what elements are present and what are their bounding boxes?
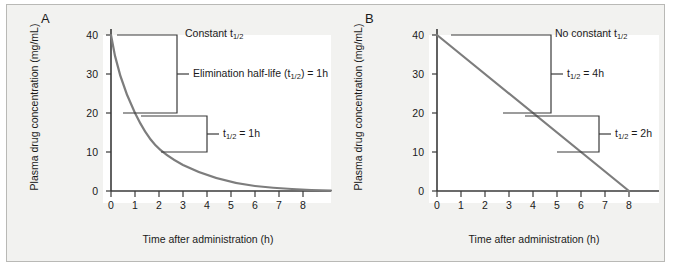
panel-a-letter: A <box>41 11 50 26</box>
panel-a-xtick-6: 6 <box>248 200 262 210</box>
panel-a-y-axis-label: Plasma drug concentration (mg/mL) <box>28 17 40 197</box>
panel-a-xtick-2: 2 <box>152 200 166 210</box>
panel-b-xtick-0: 0 <box>430 200 444 210</box>
panel-b-x-axis-label: Time after administration (h) <box>409 233 659 245</box>
panel-a-plot-svg <box>103 35 331 203</box>
panel-b-annotation-2-sub: 1/2 <box>618 132 628 141</box>
panel-b-xtick-3: 3 <box>502 200 516 210</box>
panel-b-xtick-5: 5 <box>550 200 564 210</box>
panel-a-x-ticks <box>111 191 303 197</box>
panel-a-xtick-7: 7 <box>272 200 286 210</box>
panel-a-bracket-halflife-2 <box>141 116 219 152</box>
figure-container: A Plasma drug concentration (mg/mL) <box>6 4 665 262</box>
panel-a-annotation-2: t1/2 = 1h <box>223 128 260 142</box>
panel-a-ytick-30: 30 <box>76 69 98 79</box>
panel-a-xtick-3: 3 <box>176 200 190 210</box>
panel-a-xtick-4: 4 <box>200 200 214 210</box>
panel-a-bracket-halflife-1 <box>117 35 189 113</box>
panel-b-plot-svg <box>429 35 659 203</box>
panel-b-annotation-1: t1/2 = 4h <box>567 68 604 82</box>
panel-a-heading: Constant t1/2 <box>185 28 243 42</box>
panel-a-annotation-1: Elimination half-life (t1/2) = 1h <box>193 68 328 82</box>
panel-a-ytick-40: 40 <box>76 30 98 40</box>
panel-a-annotation-1-text: Elimination half-life (t <box>193 67 290 79</box>
panel-b-y-axis-label: Plasma drug concentration (mg/mL) <box>352 17 364 197</box>
panel-b-xtick-8: 8 <box>622 200 636 210</box>
panel-a-xtick-0: 0 <box>104 200 118 210</box>
panel-b-letter: B <box>365 11 374 26</box>
panel-a-ytick-20: 20 <box>76 108 98 118</box>
panel-b-ytick-10: 10 <box>402 147 424 157</box>
panel-b-xtick-1: 1 <box>454 200 468 210</box>
panel-b-bracket-halflife-2 <box>525 116 611 152</box>
panel-a-annotation-1-sub: 1/2 <box>290 72 300 81</box>
panel-a-ytick-10: 10 <box>76 147 98 157</box>
panel-b-annotation-1-tail: = 4h <box>580 67 604 79</box>
panel-b-ytick-20: 20 <box>402 108 424 118</box>
panel-a-plot-area: 0 10 20 30 40 0 1 2 3 4 5 6 7 8 Constant… <box>103 35 331 203</box>
panel-a-xtick-1: 1 <box>128 200 142 210</box>
panel-a-x-axis-label: Time after administration (h) <box>83 233 333 245</box>
panel-b-annotation-1-sub: 1/2 <box>570 72 580 81</box>
panel-a: A Plasma drug concentration (mg/mL) <box>7 5 337 261</box>
panel-b-annotation-2: t1/2 = 2h <box>615 128 652 142</box>
panel-b-xtick-4: 4 <box>526 200 540 210</box>
panel-a-annotation-1-tail: ) = 1h <box>301 67 328 79</box>
panel-b-ytick-30: 30 <box>402 69 424 79</box>
panel-b-xtick-6: 6 <box>574 200 588 210</box>
panel-a-annotation-2-sub: 1/2 <box>226 132 236 141</box>
panel-b-heading-sub: 1/2 <box>617 32 627 41</box>
panel-a-heading-text: Constant t <box>185 27 233 39</box>
panel-b-bracket-halflife-1 <box>451 35 563 113</box>
panel-a-xtick-8: 8 <box>296 200 310 210</box>
panel-b-heading: No constant t1/2 <box>555 28 627 42</box>
panel-b-xtick-7: 7 <box>598 200 612 210</box>
panel-b-heading-text: No constant t <box>555 27 617 39</box>
panel-a-annotation-2-tail: = 1h <box>236 127 260 139</box>
panel-a-xtick-5: 5 <box>224 200 238 210</box>
panel-b-plot-area: 0 10 20 30 40 0 1 2 3 4 5 6 7 8 No const… <box>429 35 659 203</box>
panel-b-x-ticks <box>437 191 629 197</box>
panel-b-xtick-2: 2 <box>478 200 492 210</box>
panel-b: B Plasma drug concentration (mg/mL) <box>337 5 666 261</box>
panel-a-heading-sub: 1/2 <box>233 32 243 41</box>
panel-b-ytick-0: 0 <box>402 186 424 196</box>
panel-b-ytick-40: 40 <box>402 30 424 40</box>
panel-b-annotation-2-tail: = 2h <box>628 127 652 139</box>
panel-a-ytick-0: 0 <box>76 186 98 196</box>
